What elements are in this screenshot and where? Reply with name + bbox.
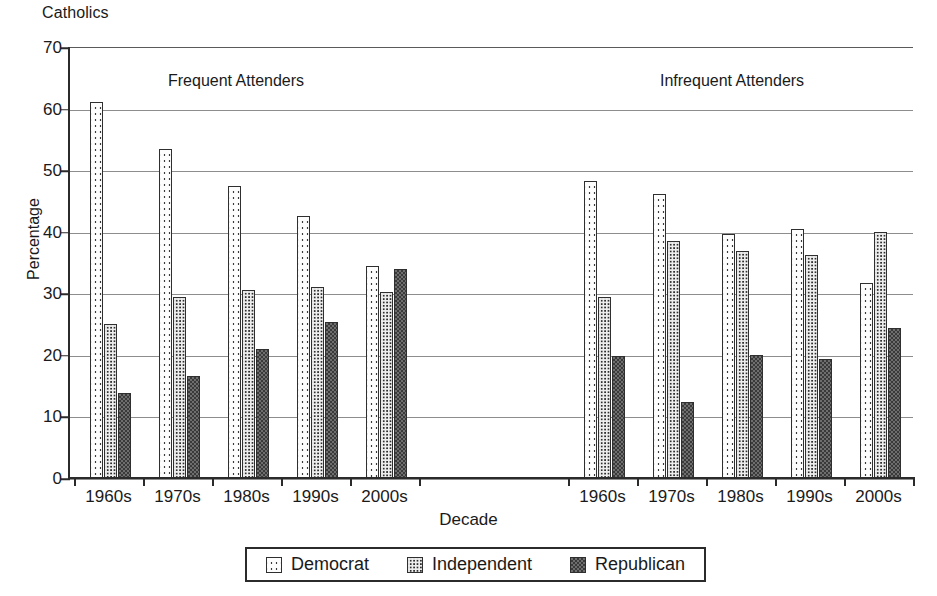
x-tick-label: 1970s bbox=[154, 487, 200, 507]
x-tick-mark bbox=[350, 477, 352, 486]
legend-item: Independent bbox=[407, 554, 532, 575]
bar-democrat-1960s bbox=[584, 181, 598, 478]
x-tick-label: 2000s bbox=[361, 487, 407, 507]
x-tick-mark bbox=[706, 477, 708, 486]
bar-republican-2000s bbox=[394, 269, 408, 478]
section-caption: Frequent Attenders bbox=[168, 72, 304, 90]
x-tick-label: 1960s bbox=[85, 487, 131, 507]
bar-republican-1970s bbox=[681, 402, 695, 478]
bar-republican-1960s bbox=[118, 393, 132, 478]
bar-independent-1970s bbox=[667, 241, 681, 478]
bar-democrat-1980s bbox=[722, 234, 736, 478]
y-tick-label: 30 bbox=[43, 284, 62, 304]
bar-republican-1990s bbox=[819, 359, 833, 478]
bar-group-2000s bbox=[366, 47, 408, 478]
chart-corner-title: Catholics bbox=[42, 4, 109, 22]
x-tick-label: 1960s bbox=[579, 487, 625, 507]
bar-democrat-1960s bbox=[90, 102, 104, 478]
plot-area: 010203040506070 bbox=[68, 47, 913, 478]
bar-independent-1990s bbox=[805, 255, 819, 479]
x-tick-mark bbox=[568, 477, 570, 486]
y-tick-label: 0 bbox=[53, 469, 62, 489]
bar-independent-2000s bbox=[874, 232, 888, 478]
bar-group-1960s bbox=[584, 47, 626, 478]
legend-label: Independent bbox=[432, 554, 532, 575]
bar-democrat-1970s bbox=[653, 194, 667, 478]
x-tick-mark bbox=[74, 477, 76, 486]
y-tick-label: 50 bbox=[43, 161, 62, 181]
x-tick-label: 1990s bbox=[786, 487, 832, 507]
x-tick-label: 2000s bbox=[855, 487, 901, 507]
chart-legend: Democrat Independent Republican bbox=[245, 547, 706, 582]
chart-container: Catholics Percentage 010203040506070 Dec… bbox=[0, 0, 937, 596]
bar-democrat-2000s bbox=[366, 266, 380, 478]
y-axis-label: Percentage bbox=[25, 159, 43, 319]
bar-independent-1990s bbox=[311, 287, 325, 478]
y-tick-label: 20 bbox=[43, 346, 62, 366]
bar-group-1970s bbox=[653, 47, 695, 478]
x-tick-mark bbox=[913, 477, 915, 486]
x-tick-label: 1980s bbox=[717, 487, 763, 507]
x-axis-line bbox=[68, 477, 915, 479]
republican-swatch bbox=[570, 557, 586, 573]
y-tick-label: 60 bbox=[43, 100, 62, 120]
legend-label: Democrat bbox=[291, 554, 369, 575]
bar-republican-1980s bbox=[750, 355, 764, 478]
bar-democrat-1970s bbox=[159, 149, 173, 478]
bar-group-1980s bbox=[228, 47, 270, 478]
bar-republican-1960s bbox=[612, 356, 626, 478]
y-tick-label: 70 bbox=[43, 38, 62, 58]
y-tick-mark bbox=[61, 232, 70, 234]
bar-republican-1970s bbox=[187, 376, 201, 478]
y-tick-mark bbox=[61, 417, 70, 419]
bar-democrat-1990s bbox=[297, 216, 311, 478]
legend-label: Republican bbox=[595, 554, 685, 575]
bar-independent-1960s bbox=[598, 297, 612, 478]
bar-independent-1980s bbox=[242, 290, 256, 478]
bar-independent-2000s bbox=[380, 292, 394, 478]
bar-independent-1970s bbox=[173, 297, 187, 478]
bar-group-2000s bbox=[860, 47, 902, 478]
legend-item: Democrat bbox=[266, 554, 369, 575]
y-tick-mark bbox=[61, 109, 70, 111]
bar-independent-1980s bbox=[736, 251, 750, 478]
x-tick-mark bbox=[419, 477, 421, 486]
democrat-swatch bbox=[266, 557, 282, 573]
x-tick-mark bbox=[212, 477, 214, 486]
bar-group-1990s bbox=[297, 47, 339, 478]
bar-republican-1980s bbox=[256, 349, 270, 478]
bar-group-1980s bbox=[722, 47, 764, 478]
x-tick-mark bbox=[637, 477, 639, 486]
y-tick-label: 10 bbox=[43, 407, 62, 427]
x-tick-label: 1990s bbox=[292, 487, 338, 507]
gridline bbox=[70, 479, 913, 480]
legend-item: Republican bbox=[570, 554, 685, 575]
y-tick-label: 40 bbox=[43, 223, 62, 243]
x-tick-mark bbox=[281, 477, 283, 486]
bar-group-1960s bbox=[90, 47, 132, 478]
x-tick-mark bbox=[775, 477, 777, 486]
x-tick-mark bbox=[143, 477, 145, 486]
y-tick-mark bbox=[61, 170, 70, 172]
bar-republican-2000s bbox=[888, 328, 902, 478]
x-tick-label: 1980s bbox=[223, 487, 269, 507]
y-tick-mark bbox=[61, 294, 70, 296]
bar-republican-1990s bbox=[325, 322, 339, 478]
section-caption: Infrequent Attenders bbox=[660, 72, 804, 90]
x-tick-mark bbox=[844, 477, 846, 486]
bar-democrat-1980s bbox=[228, 186, 242, 478]
bar-group-1990s bbox=[791, 47, 833, 478]
bar-independent-1960s bbox=[104, 324, 118, 478]
independent-swatch bbox=[407, 557, 423, 573]
bar-democrat-2000s bbox=[860, 283, 874, 478]
y-tick-mark bbox=[61, 355, 70, 357]
x-tick-label: 1970s bbox=[648, 487, 694, 507]
x-axis-label: Decade bbox=[0, 510, 937, 530]
bar-democrat-1990s bbox=[791, 229, 805, 478]
y-tick-mark bbox=[61, 47, 70, 49]
bar-group-1970s bbox=[159, 47, 201, 478]
